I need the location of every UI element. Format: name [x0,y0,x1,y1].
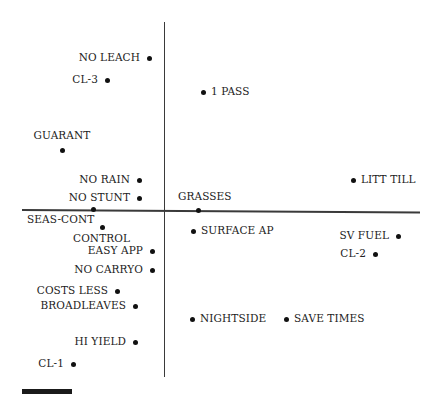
point-marker-icon [133,304,138,309]
point-label: 1 PASS [211,85,250,97]
point-label: COSTS LESS [37,284,108,296]
point-marker-icon [284,317,289,322]
figure-caption-cropped [22,386,74,394]
point-label: CL-1 [38,357,64,369]
point-marker-icon [201,90,206,95]
point-marker-icon [373,252,378,257]
point-marker-icon [91,207,96,212]
point-label: NO LEACH [79,51,140,63]
point-label: SV FUEL [339,229,389,241]
point-marker-icon [137,178,142,183]
point-label: NO STUNT [69,191,130,203]
point-label: LITT TILL [361,173,416,185]
point-label: CL-3 [72,73,98,85]
point-label: CL-2 [340,247,366,259]
point-label: NO CARRYO [74,263,143,275]
point-marker-icon [196,208,201,213]
point-marker-icon [105,78,110,83]
point-marker-icon [71,362,76,367]
point-label: SEAS-CONT [27,213,94,225]
point-marker-icon [137,196,142,201]
point-label: EASY APP [88,244,143,256]
point-label: HI YIELD [74,335,126,347]
vertical-axis [164,22,165,377]
point-label: NIGHTSIDE [200,312,266,324]
scatter-plot: NO LEACHCL-31 PASSGUARANTNO RAINNO STUNT… [0,0,439,394]
point-marker-icon [60,148,65,153]
point-marker-icon [190,317,195,322]
point-marker-icon [133,340,138,345]
point-label: BROADLEAVES [41,299,126,311]
point-label: NO RAIN [79,173,130,185]
point-marker-icon [100,225,105,230]
caption-text-cropped [22,389,72,394]
point-label: SAVE TIMES [294,312,365,324]
point-marker-icon [396,234,401,239]
point-marker-icon [150,249,155,254]
point-marker-icon [191,229,196,234]
point-marker-icon [150,268,155,273]
point-label: GRASSES [178,190,232,202]
point-marker-icon [351,178,356,183]
point-marker-icon [147,56,152,61]
point-label: SURFACE AP [201,224,274,236]
point-label: CONTROL [73,232,130,244]
point-marker-icon [115,289,120,294]
point-label: GUARANT [34,129,91,141]
